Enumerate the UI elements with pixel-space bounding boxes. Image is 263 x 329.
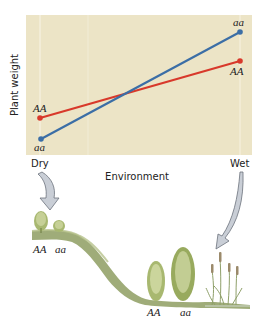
x-label-wet: Wet xyxy=(230,158,249,169)
reaction-norm-figure: Plant weight AA aa aa AA Dry Wet Environ… xyxy=(0,0,263,329)
label-aa-dry-plant: aa xyxy=(55,243,67,255)
label-AA-wet-plant: AA xyxy=(146,306,161,318)
dry-arrow-icon xyxy=(38,172,59,210)
data-point-AA-wet xyxy=(237,58,243,64)
label-AA-dry: AA xyxy=(32,102,47,114)
label-aa-dry: aa xyxy=(34,141,46,153)
label-AA-dry-plant: AA xyxy=(32,243,47,255)
wet-arrow-icon xyxy=(216,172,243,249)
water-line xyxy=(205,305,250,307)
chart-background xyxy=(26,15,252,155)
x-axis-label: Environment xyxy=(105,171,169,182)
plant-AA-wet xyxy=(147,261,165,301)
data-point-AA-dry xyxy=(37,115,43,121)
chart-panel: Plant weight AA aa aa AA xyxy=(9,15,252,155)
label-aa-wet-plant: aa xyxy=(180,306,192,318)
plant-aa-dry xyxy=(53,220,65,232)
data-point-aa-wet xyxy=(237,29,243,35)
label-AA-wet: AA xyxy=(229,65,244,77)
cattail-heads xyxy=(211,252,239,275)
plant-aa-wet xyxy=(171,247,195,301)
y-axis-label: Plant weight xyxy=(9,54,20,116)
x-label-dry: Dry xyxy=(31,158,49,169)
landscape: AA aa AA aa xyxy=(32,211,250,318)
label-aa-wet: aa xyxy=(233,16,245,28)
